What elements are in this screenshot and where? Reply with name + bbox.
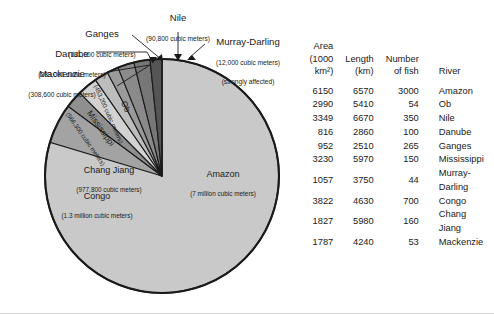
cell-river: Nile <box>425 112 494 126</box>
table-header-river: River <box>425 40 494 78</box>
cell-length: 2860 <box>339 126 379 140</box>
cell-area: 3822 <box>298 195 339 209</box>
table-row: 2990 5410 54 Ob <box>298 98 494 112</box>
cell-length: 6570 <box>339 78 379 99</box>
table-header-length-line2: (km) <box>345 65 373 78</box>
callout-murray-darling-name: Murray-Darling <box>216 36 279 47</box>
cell-fish: 54 <box>380 98 425 112</box>
table-row: 1787 4240 53 Mackenzie <box>298 236 494 250</box>
table-row: 1827 5980 160 Chang Jiang <box>298 208 494 236</box>
cell-fish: 3000 <box>380 78 425 99</box>
table-header-area-line1: Area <box>304 40 333 53</box>
figure-river-discharge-pie-and-table: Amazon (7 million cubic meters) Congo (1… <box>0 0 494 314</box>
cell-fish: 160 <box>380 208 425 236</box>
cell-area: 6150 <box>298 78 339 99</box>
callout-murray-darling: Murray-Darling (12,000 cubic meters) (st… <box>196 30 300 89</box>
table-row: 3349 6670 350 Nile <box>298 112 494 126</box>
table-header-length: Length (km) <box>339 40 379 78</box>
cell-fish: 700 <box>380 195 425 209</box>
cell-length: 5980 <box>339 208 379 236</box>
cell-length: 4630 <box>339 195 379 209</box>
cell-area: 1057 <box>298 167 339 195</box>
cell-area: 1827 <box>298 208 339 236</box>
callout-murray-darling-note: (strongly affected) <box>222 78 275 85</box>
callout-mackenzie-value: (308,600 cubic meters) <box>28 91 95 98</box>
cell-length: 3750 <box>339 167 379 195</box>
cell-area: 3230 <box>298 153 339 167</box>
cell-area: 1787 <box>298 236 339 250</box>
cell-area: 952 <box>298 140 339 154</box>
cell-river: Murray-Darling <box>425 167 494 195</box>
cell-river: Mississippi <box>425 153 494 167</box>
callout-murray-darling-value: (12,000 cubic meters) <box>216 59 280 66</box>
cell-fish: 265 <box>380 140 425 154</box>
river-data-table: Area (1000 km²) Length (km) Number of fi… <box>298 40 494 250</box>
table-row: 952 2510 265 Ganges <box>298 140 494 154</box>
cell-river: Mackenzie <box>425 236 494 250</box>
table-row: 6150 6570 3000 Amazon <box>298 78 494 99</box>
table-header-area: Area (1000 km²) <box>298 40 339 78</box>
table-row: 1057 3750 44 Murray-Darling <box>298 167 494 195</box>
cell-fish: 44 <box>380 167 425 195</box>
callout-ganges-name: Ganges <box>85 28 119 39</box>
cell-length: 6670 <box>339 112 379 126</box>
cell-length: 2510 <box>339 140 379 154</box>
cell-fish: 350 <box>380 112 425 126</box>
table-header-row: Area (1000 km²) Length (km) Number of fi… <box>298 40 494 78</box>
cell-river: Danube <box>425 126 494 140</box>
table-header-fish: Number of fish <box>380 40 425 78</box>
cell-river: Ganges <box>425 140 494 154</box>
table-header-river-line1: River <box>439 65 488 78</box>
cell-fish: 53 <box>380 236 425 250</box>
table-header-area-line2: (1000 km²) <box>304 53 333 78</box>
table-header-fish-line2: of fish <box>386 65 419 78</box>
cell-river: Ob <box>425 98 494 112</box>
cell-fish: 150 <box>380 153 425 167</box>
callout-danube-value: (283,000 cubic meters) <box>38 71 105 78</box>
table-row: 3822 4630 700 Congo <box>298 195 494 209</box>
cell-river: Amazon <box>425 78 494 99</box>
table: Area (1000 km²) Length (km) Number of fi… <box>298 40 494 250</box>
cell-river: Chang Jiang <box>425 208 494 236</box>
table-row: 816 2860 100 Danube <box>298 126 494 140</box>
cell-area: 3349 <box>298 112 339 126</box>
cell-length: 4240 <box>339 236 379 250</box>
cell-fish: 100 <box>380 126 425 140</box>
cell-length: 5410 <box>339 98 379 112</box>
cell-river: Congo <box>425 195 494 209</box>
cell-area: 2990 <box>298 98 339 112</box>
table-header-fish-line1: Number <box>386 53 419 66</box>
cell-area: 816 <box>298 126 339 140</box>
table-row: 3230 5970 150 Mississippi <box>298 153 494 167</box>
callout-nile-name: Nile <box>170 12 187 23</box>
cell-length: 5970 <box>339 153 379 167</box>
table-header-length-line1: Length <box>345 53 373 66</box>
callout-ganges-value: (181,000 cubic meters) <box>68 51 135 58</box>
